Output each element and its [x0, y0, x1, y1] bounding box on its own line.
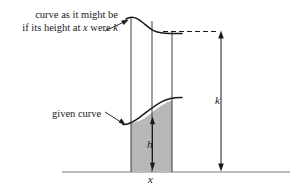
hypothetical-curve-annotation-line2-prefix: if its height at: [22, 22, 83, 33]
leader-arrowhead-hypothetical-curve: [121, 20, 128, 25]
hypothetical-curve-annotation-line2-middle: were: [88, 22, 114, 33]
hypothetical-curve-annotation-line1: curve as it might be: [35, 9, 118, 20]
x-abscissa-label: x: [148, 173, 153, 186]
figure-canvas: curve as it might be if its height at x …: [0, 0, 296, 194]
leader-arrowhead-given-curve: [119, 118, 126, 125]
h-measure-label: h: [147, 138, 153, 151]
given-curve-label: given curve: [52, 108, 101, 121]
hypothetical-curve-annotation: curve as it might be if its height at x …: [14, 9, 118, 34]
k-measure-label: k: [215, 94, 220, 107]
shaded-strip: [131, 100, 172, 172]
k-measure-arrowhead-bottom: [218, 164, 224, 172]
hypothetical-curve-annotation-var-k: k: [113, 22, 118, 33]
k-measure-arrowhead-top: [218, 31, 224, 39]
